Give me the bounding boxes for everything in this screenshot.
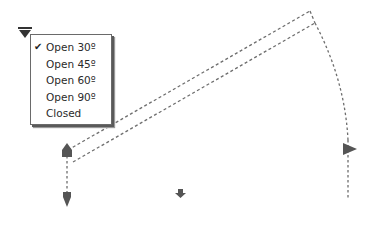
swing-arc <box>315 23 348 140</box>
menu-item-open-90[interactable]: Open 90º <box>31 89 111 106</box>
menu-item-label: Closed <box>46 107 81 119</box>
menu-item-label: Open 90º <box>46 91 96 103</box>
menu-item-open-45[interactable]: Open 45º <box>31 56 111 73</box>
arrow-down-icon[interactable] <box>63 192 71 207</box>
menu-item-label: Open 60º <box>46 74 96 86</box>
door-state-menu: ✔ Open 30º Open 45º Open 60º Open 90º Cl… <box>30 34 112 125</box>
small-arrow-down-icon[interactable] <box>175 189 186 198</box>
menu-item-open-30[interactable]: ✔ Open 30º <box>31 39 111 56</box>
menu-item-open-60[interactable]: Open 60º <box>31 72 111 89</box>
menu-item-closed[interactable]: Closed <box>31 105 111 122</box>
checkmark-icon: ✔ <box>34 39 42 56</box>
menu-item-label: Open 30º <box>46 41 96 53</box>
menu-item-label: Open 45º <box>46 58 96 70</box>
hinge-handle-icon[interactable] <box>62 143 72 157</box>
arrow-right-icon[interactable] <box>343 143 357 155</box>
